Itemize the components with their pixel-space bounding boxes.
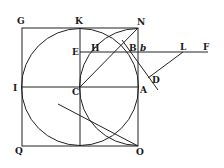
line-to-o (58, 104, 138, 146)
label-o: O (136, 147, 144, 157)
label-k: K (75, 16, 84, 26)
label-n: N (137, 17, 145, 27)
label-e: E (72, 47, 79, 57)
label-b: B (129, 43, 137, 53)
label-a: A (139, 85, 148, 95)
label-f: F (203, 42, 210, 52)
line-cn (80, 28, 138, 87)
label-i: I (13, 83, 17, 93)
label-l: L (180, 42, 187, 52)
label-q: Q (15, 146, 23, 156)
label-h: H (91, 43, 100, 53)
label-d: D (152, 75, 160, 85)
label-small-b: b (140, 43, 146, 53)
label-c: C (72, 87, 79, 97)
label-g: G (17, 16, 25, 26)
geometry-diagram: G K N E H B b L F D I C A Q O (0, 0, 224, 168)
